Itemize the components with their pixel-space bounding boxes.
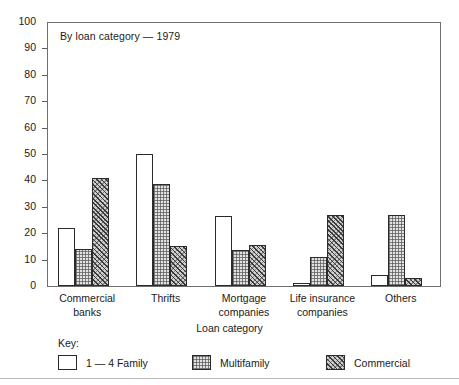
y-axis-tick-mark [42, 180, 47, 181]
bar [58, 228, 75, 286]
legend-swatch [326, 355, 345, 370]
y-axis-tick-label: 20 [24, 226, 36, 238]
bar [215, 216, 232, 286]
bar [388, 215, 405, 286]
y-axis-tick-mark [42, 75, 47, 76]
legend-items: 1 — 4 FamilyMultifamilyCommercial [58, 355, 418, 377]
bar [371, 275, 388, 286]
legend-swatch [58, 355, 77, 370]
bar-group [136, 22, 187, 286]
legend-item: Commercial [326, 355, 410, 370]
legend-item: Multifamily [192, 355, 270, 370]
plot-area [48, 22, 440, 286]
y-axis-tick-mark [42, 154, 47, 155]
legend-label: Multifamily [220, 357, 270, 369]
y-axis-tick-mark [42, 22, 47, 23]
bar-group [293, 22, 344, 286]
x-axis-category-label-line: banks [34, 305, 140, 319]
bar-group [58, 22, 109, 286]
legend-label: Commercial [354, 357, 410, 369]
y-axis-tick-mark [42, 128, 47, 129]
y-axis-tick-label: 90 [24, 41, 36, 53]
legend-title: Key: [58, 337, 418, 349]
y-axis-tick-label: 50 [24, 147, 36, 159]
bar-group [215, 22, 266, 286]
y-axis-tick-label: 60 [24, 121, 36, 133]
bar [153, 184, 170, 286]
y-axis-tick-label: 70 [24, 94, 36, 106]
x-axis-category-label-line: Others [348, 291, 454, 305]
legend: Key: 1 — 4 FamilyMultifamilyCommercial [58, 337, 418, 377]
legend-item: 1 — 4 Family [58, 355, 148, 370]
x-axis-category-label: Others [348, 291, 454, 305]
y-axis-tick-label: 80 [24, 68, 36, 80]
bar [136, 154, 153, 286]
bar [405, 278, 422, 286]
legend-label: 1 — 4 Family [86, 357, 148, 369]
y-axis-tick-label: 40 [24, 173, 36, 185]
x-axis-category-label-line: companies [269, 305, 375, 319]
y-axis-tick-mark [42, 286, 47, 287]
figure-bottom-rule [0, 378, 459, 379]
bar-chart-figure: By loan category — 1979 Percent 01020304… [0, 0, 459, 385]
x-axis-label: Loan category [0, 322, 459, 334]
legend-swatch [192, 355, 211, 370]
bar [170, 246, 187, 286]
y-axis-tick-mark [42, 207, 47, 208]
bar [310, 257, 327, 286]
bar [232, 250, 249, 286]
bar [327, 215, 344, 286]
bar [92, 178, 109, 286]
y-axis-tick-mark [42, 48, 47, 49]
y-axis-tick-mark [42, 260, 47, 261]
bar [249, 245, 266, 286]
y-axis-tick-label: 30 [24, 200, 36, 212]
y-axis-tick-label: 10 [24, 253, 36, 265]
y-axis-tick-label: 0 [30, 279, 36, 291]
bar-group [371, 22, 422, 286]
y-axis-tick-label: 100 [18, 15, 36, 27]
y-axis-tick-mark [42, 233, 47, 234]
bar [75, 249, 92, 286]
y-axis-tick-mark [42, 101, 47, 102]
bar [293, 283, 310, 286]
